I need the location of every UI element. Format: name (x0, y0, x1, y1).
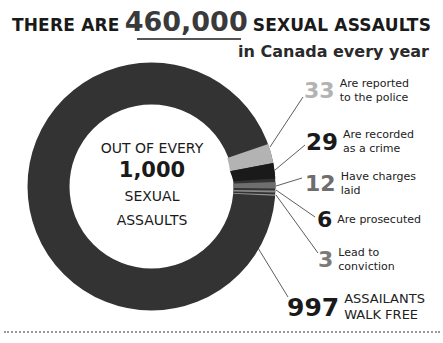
label-prosecuted: 6 Are prosecuted (317, 209, 421, 231)
label-desc: Lead toconviction (338, 246, 394, 274)
label-reported: 33 Are reportedto the police (304, 77, 409, 105)
label-convicted: 3 Lead toconviction (318, 246, 395, 274)
label-desc: Have chargeslaid (341, 170, 416, 198)
center-line-1: OUT OF EVERY (66, 140, 238, 156)
center-label: OUT OF EVERY 1,000 SEXUAL ASSAULTS (66, 140, 238, 228)
label-walk-free: 997 ASSAILANTSWALK FREE (287, 291, 425, 323)
label-desc: ASSAILANTSWALK FREE (344, 291, 425, 323)
label-value: 6 (317, 209, 332, 231)
label-desc: Are reportedto the police (340, 77, 409, 105)
label-value: 3 (318, 249, 333, 271)
label-recorded: 29 Are recordedas a crime (306, 128, 414, 156)
dotted-divider (4, 331, 440, 333)
label-charged: 12 Have chargeslaid (305, 170, 416, 198)
label-desc: Are prosecuted (337, 213, 421, 227)
label-desc: Are recordedas a crime (343, 128, 414, 156)
label-value: 29 (306, 131, 338, 154)
label-value: 12 (305, 173, 336, 195)
label-value: 997 (287, 295, 339, 320)
center-line-2: 1,000 (66, 158, 238, 182)
center-line-4: ASSAULTS (66, 212, 238, 228)
label-value: 33 (304, 80, 335, 102)
center-line-3: SEXUAL (66, 188, 238, 204)
